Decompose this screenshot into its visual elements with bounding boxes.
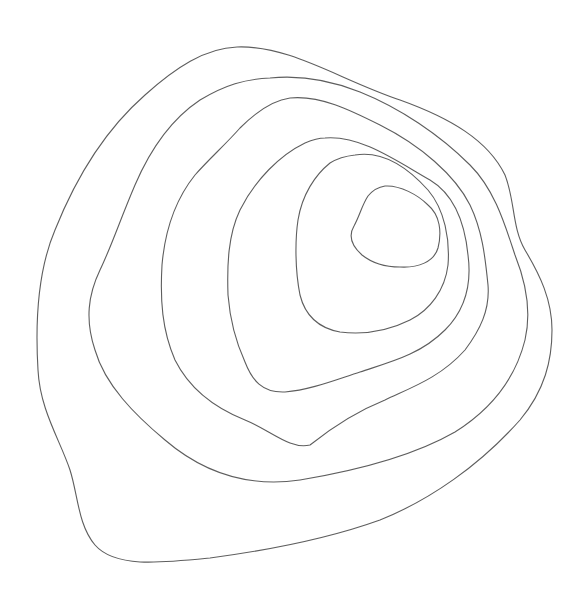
contour-line-5 — [296, 154, 448, 333]
contour-line-3 — [161, 98, 488, 446]
contour-diagram — [0, 0, 586, 600]
contour-line-2 — [89, 77, 528, 482]
contour-svg — [0, 0, 586, 600]
contour-line-inner — [351, 186, 440, 267]
contour-line-outer — [37, 47, 552, 562]
contour-line-4 — [228, 138, 469, 392]
